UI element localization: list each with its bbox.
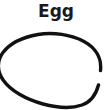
egg-outline-path bbox=[0, 33, 101, 107]
egg-outline-svg bbox=[0, 0, 112, 110]
drawing-canvas: Egg bbox=[0, 0, 112, 110]
sketch-area bbox=[0, 0, 112, 110]
